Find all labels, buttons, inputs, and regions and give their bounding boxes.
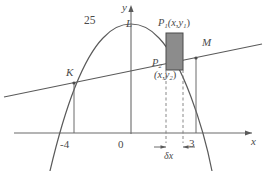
y-axis-arrow-icon (128, 5, 133, 12)
point-p1-label: P1(x,y1) (158, 18, 190, 29)
p1-coords-close: ) (186, 17, 190, 28)
x-axis-label: x (251, 136, 256, 147)
point-m-label: M (202, 37, 211, 48)
x-axis (14, 130, 252, 135)
delta-x-right-arrow-icon (183, 145, 189, 149)
x-tick-label-3: 3 (189, 138, 195, 149)
origin-label: 0 (118, 139, 124, 150)
point-p2-coords-label: (x,y2) (154, 70, 176, 81)
point-l-label: L (126, 18, 132, 29)
y-axis-label: y (122, 2, 127, 13)
x-tick-label-minus-4: -4 (60, 139, 69, 150)
p2-coords-subscript: 2 (169, 74, 172, 81)
element-strip-rect (166, 33, 183, 70)
p1-coords-open: (x,y (168, 17, 183, 28)
point-k-marker (72, 81, 75, 84)
p1-subscript: 1 (164, 22, 167, 29)
geometry-figure: 25 L P1(x,y1) M K P2 (x,y2) y x 0 -4 3 δ… (0, 0, 266, 171)
figure-canvas (0, 0, 266, 171)
point-m-marker (194, 56, 197, 59)
delta-x-left-arrow-icon (161, 145, 167, 149)
chord-line (4, 44, 262, 97)
vertex-value-label: 25 (84, 15, 96, 27)
point-k-label: K (66, 67, 73, 78)
p2-coords-open: (x,y (154, 69, 169, 80)
point-p2-label: P2 (152, 58, 162, 69)
delta-x-label: δx (164, 151, 173, 161)
p1-coords-subscript: 1 (183, 22, 186, 29)
p2-subscript: 2 (158, 62, 161, 69)
p2-coords-close: ) (173, 69, 177, 80)
